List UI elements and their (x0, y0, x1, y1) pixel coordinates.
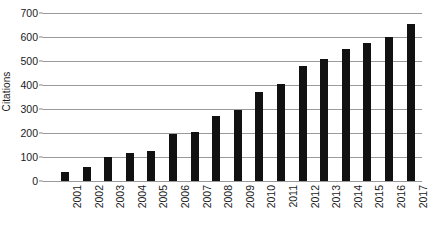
x-axis-tick-label: 2013 (329, 185, 343, 225)
x-axis-tick-label: 2014 (351, 185, 365, 225)
x-axis-tick-label: 2009 (243, 185, 257, 225)
y-axis-tick-label: 100 (20, 151, 38, 163)
bar (104, 157, 112, 181)
y-axis-tick-label: 0 (32, 175, 38, 187)
y-axis-tick-label: 600 (20, 31, 38, 43)
y-axis-tick-label: 500 (20, 55, 38, 67)
bar (277, 84, 285, 181)
y-axis-tick-label: 300 (20, 103, 38, 115)
bar (363, 43, 371, 181)
x-axis-tick-label: 2012 (308, 185, 322, 225)
x-axis-tick-label: 2001 (70, 185, 84, 225)
y-axis-title: Citations (0, 0, 14, 183)
x-axis-tick-label: 2005 (156, 185, 170, 225)
x-axis-tick-labels: 2001200220032004200520062007200820092010… (43, 183, 422, 223)
y-axis-tick-label: 700 (20, 7, 38, 19)
bars-series (43, 0, 422, 183)
x-axis-tick-label: 2004 (135, 185, 149, 225)
x-axis-tick-label: 2017 (416, 185, 430, 225)
bar (83, 167, 91, 181)
x-axis-tick-label: 2011 (286, 185, 300, 225)
bar (126, 153, 134, 181)
x-axis-tick-label: 2015 (372, 185, 386, 225)
bar (299, 66, 307, 181)
bar (255, 92, 263, 181)
x-axis-tick-label: 2008 (221, 185, 235, 225)
bar (407, 24, 415, 181)
y-axis-tick-labels: 0100200300400500600700 (14, 0, 43, 183)
x-axis-tick-label: 2007 (200, 185, 214, 225)
bar (385, 37, 393, 181)
bar (169, 134, 177, 181)
x-axis-tick-label: 2016 (394, 185, 408, 225)
bar (61, 172, 69, 181)
y-axis-tick-label: 400 (20, 79, 38, 91)
x-axis-tick-label: 2010 (264, 185, 278, 225)
bar (191, 132, 199, 181)
bar (234, 110, 242, 181)
x-axis-tick-label: 2006 (178, 185, 192, 225)
x-axis-tick-label: 2002 (92, 185, 106, 225)
bar (212, 116, 220, 181)
y-axis-title-label: Citations (2, 72, 13, 112)
plot-area (43, 0, 422, 183)
x-axis-tick-label: 2003 (113, 185, 127, 225)
bar (342, 49, 350, 181)
bar (320, 59, 328, 181)
y-axis-tick-label: 200 (20, 127, 38, 139)
bar (147, 151, 155, 181)
